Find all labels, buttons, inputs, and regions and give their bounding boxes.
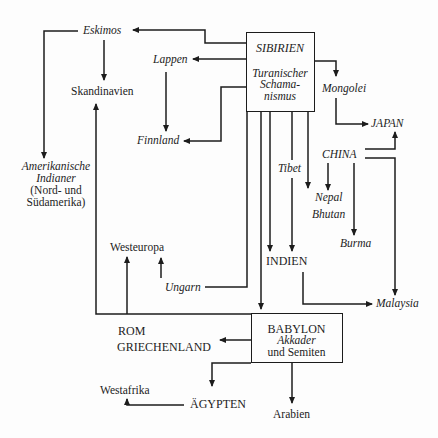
node-skandinavien: Skandinavien bbox=[71, 85, 134, 98]
node-aegypten: ÄGYPTEN bbox=[190, 398, 246, 411]
node-westeuropa: Westeuropa bbox=[110, 241, 164, 254]
node-rom: ROM bbox=[118, 325, 145, 338]
node-eskimos: Eskimos bbox=[83, 24, 121, 37]
node-amerikanische-line4: Südamerika) bbox=[18, 196, 94, 209]
node-finnland: Finnland bbox=[137, 134, 179, 147]
diagram-canvas: SIBIRIEN Turanischer Schama- nismus BABY… bbox=[0, 0, 438, 438]
node-lappen: Lappen bbox=[153, 53, 188, 66]
node-westafrika: Westafrika bbox=[100, 384, 150, 397]
connector-lines bbox=[0, 0, 438, 438]
node-tibet: Tibet bbox=[278, 162, 301, 175]
node-bhutan: Bhutan bbox=[312, 208, 345, 221]
babylon-box: BABYLON Akkader und Semiten bbox=[251, 313, 343, 363]
sibirien-box: SIBIRIEN Turanischer Schama- nismus bbox=[246, 32, 315, 112]
sibirien-line3: nismus bbox=[247, 90, 313, 103]
node-arabien: Arabien bbox=[273, 408, 310, 421]
node-burma: Burma bbox=[340, 237, 371, 250]
babylon-line2: und Semiten bbox=[252, 346, 341, 359]
node-japan: JAPAN bbox=[371, 117, 403, 130]
node-china: CHINA bbox=[322, 148, 357, 161]
sibirien-title: SIBIRIEN bbox=[247, 42, 313, 55]
node-malaysia: Malaysia bbox=[376, 297, 419, 310]
node-indien: INDIEN bbox=[266, 255, 307, 268]
node-mongolei: Mongolei bbox=[322, 82, 366, 95]
node-griechenland: GRIECHENLAND bbox=[117, 341, 211, 354]
node-ungarn: Ungarn bbox=[165, 281, 201, 294]
node-nepal: Nepal bbox=[315, 191, 342, 204]
